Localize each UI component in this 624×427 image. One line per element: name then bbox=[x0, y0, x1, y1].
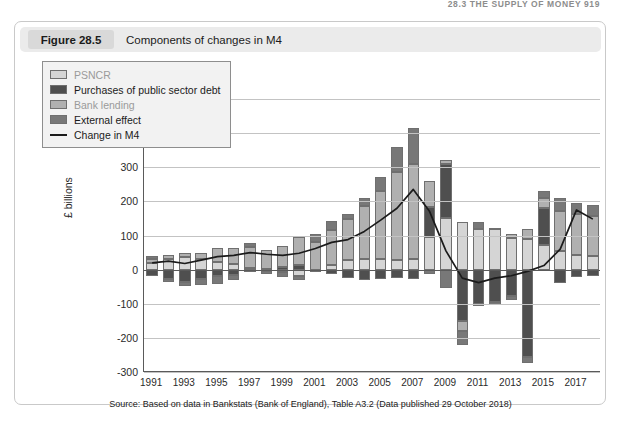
figure-number-badge: Figure 28.5 bbox=[28, 30, 114, 49]
x-tick-label: 2009 bbox=[434, 377, 456, 388]
x-tick-label: 1999 bbox=[271, 377, 293, 388]
y-tick-label: 300 bbox=[98, 161, 138, 173]
x-tick-label: 1993 bbox=[173, 377, 195, 388]
x-tick-label: 2003 bbox=[336, 377, 358, 388]
y-tick-label: -300 bbox=[98, 366, 138, 378]
chart-area: £ billions 5004003002001000-100-200-300 … bbox=[20, 58, 601, 395]
y-tick-label: -100 bbox=[98, 298, 138, 310]
zero-line bbox=[144, 270, 600, 271]
source-note: Source: Based on data in Bankstats (Bank… bbox=[20, 399, 601, 409]
legend-swatch-psncr bbox=[50, 70, 67, 79]
y-tick-label: -200 bbox=[98, 332, 138, 344]
x-tick-label: 1997 bbox=[238, 377, 260, 388]
legend-label: Purchases of public sector debt bbox=[74, 84, 221, 96]
x-tick-label: 2011 bbox=[467, 377, 489, 388]
x-tick-label: 2007 bbox=[401, 377, 423, 388]
figure-title: Components of changes in M4 bbox=[126, 27, 282, 52]
chart-legend: PSNCRPurchases of public sector debtBank… bbox=[42, 61, 231, 148]
legend-swatch-bank-lending bbox=[50, 100, 67, 109]
figure-caption-bar: Figure 28.5 Components of changes in M4 bbox=[20, 27, 601, 52]
gridline--300 bbox=[144, 372, 600, 373]
running-head: 28.3 THE SUPPLY OF MONEY 919 bbox=[448, 0, 600, 9]
legend-swatch-purchases-of-public-sector-debt bbox=[50, 85, 67, 94]
x-tick-label: 2017 bbox=[564, 377, 586, 388]
x-tick-label: 2015 bbox=[532, 377, 554, 388]
gridline-100 bbox=[144, 236, 600, 237]
x-tick-label: 2005 bbox=[369, 377, 391, 388]
figure-box: Figure 28.5 Components of changes in M4 … bbox=[14, 21, 606, 405]
y-axis-title: £ billions bbox=[62, 177, 74, 218]
legend-item-psncr: PSNCR bbox=[50, 67, 221, 82]
x-tick-label: 2013 bbox=[499, 377, 521, 388]
y-tick-label: 0 bbox=[98, 264, 138, 276]
legend-line-marker bbox=[50, 130, 67, 139]
gridline--100 bbox=[144, 304, 600, 305]
y-tick-label: 200 bbox=[98, 195, 138, 207]
gridline--200 bbox=[144, 338, 600, 339]
legend-label: Change in M4 bbox=[74, 129, 139, 141]
legend-swatch-external-effect bbox=[50, 115, 67, 124]
legend-label: PSNCR bbox=[74, 69, 111, 81]
legend-item-change-in-m4: Change in M4 bbox=[50, 127, 221, 142]
gridline-300 bbox=[144, 167, 600, 168]
x-tick-label: 1995 bbox=[205, 377, 227, 388]
legend-item-purchases-of-public-sector-debt: Purchases of public sector debt bbox=[50, 82, 221, 97]
legend-label: Bank lending bbox=[74, 99, 135, 111]
legend-item-external-effect: External effect bbox=[50, 112, 221, 127]
x-tick-label: 2001 bbox=[303, 377, 325, 388]
x-tick-label: 1991 bbox=[140, 377, 162, 388]
y-tick-label: 100 bbox=[98, 230, 138, 242]
gridline-200 bbox=[144, 201, 600, 202]
x-axis-ticks: 1991199319951997199920012003200520072009… bbox=[143, 377, 600, 393]
legend-label: External effect bbox=[74, 114, 141, 126]
legend-item-bank-lending: Bank lending bbox=[50, 97, 221, 112]
